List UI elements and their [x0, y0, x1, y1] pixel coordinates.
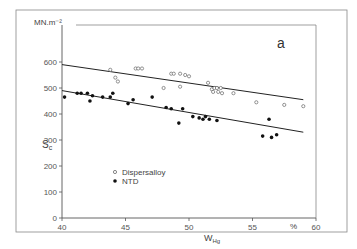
x-tick-label: 55 [248, 223, 257, 232]
data-point-dispersalloy [172, 72, 175, 75]
data-point-dispersalloy [179, 72, 182, 75]
fit-line-dispersalloy [62, 65, 303, 100]
x-axis-label: WHg [204, 233, 220, 244]
legend-label-dispersalloy: Dispersalloy [122, 168, 166, 177]
fit-line-ntd [62, 91, 303, 133]
data-point-ntd [75, 91, 79, 95]
data-point-dispersalloy [217, 90, 220, 93]
data-point-dispersalloy [140, 67, 143, 70]
data-point-ntd [101, 95, 105, 99]
data-point-ntd [79, 91, 83, 95]
y-tick-label: 600 [44, 58, 58, 67]
data-point-dispersalloy [187, 75, 190, 78]
outer-frame [16, 10, 347, 232]
data-point-ntd [197, 116, 201, 120]
data-point-dispersalloy [212, 90, 215, 93]
legend-open-circle-icon [113, 170, 116, 173]
data-point-ntd [191, 115, 195, 119]
x-tick-label: 45 [121, 223, 130, 232]
x-tick-label: 40 [58, 223, 67, 232]
data-point-dispersalloy [206, 81, 209, 84]
data-point-dispersalloy [114, 76, 117, 79]
y-tick-label: 200 [44, 162, 58, 171]
data-point-ntd [126, 102, 130, 106]
data-point-ntd [181, 107, 185, 111]
chart: 01002003004005006004045505560 MN.m⁻² a S… [0, 0, 357, 249]
data-point-dispersalloy [255, 101, 258, 104]
data-point-dispersalloy [116, 80, 119, 83]
legend: Dispersalloy NTD [113, 168, 165, 186]
legend-label-ntd: NTD [122, 177, 139, 186]
data-point-dispersalloy [137, 67, 140, 70]
data-point-ntd [108, 95, 112, 99]
data-point-ntd [204, 115, 208, 119]
y-tick-label: 100 [44, 188, 58, 197]
data-point-dispersalloy [283, 103, 286, 106]
data-point-ntd [88, 99, 92, 103]
data-point-dispersalloy [302, 105, 305, 108]
data-point-dispersalloy [179, 85, 182, 88]
data-point-ntd [270, 136, 274, 140]
data-point-ntd [91, 94, 95, 98]
data-point-dispersalloy [184, 73, 187, 76]
data-point-ntd [261, 134, 265, 138]
y-unit-label: MN.m⁻² [34, 18, 62, 27]
y-tick-label: 400 [44, 110, 58, 119]
data-point-dispersalloy [215, 86, 218, 89]
data-point-ntd [164, 106, 168, 110]
data-point-ntd [275, 133, 279, 137]
data-point-dispersalloy [232, 92, 235, 95]
data-point-ntd [131, 98, 135, 102]
data-point-ntd [208, 117, 212, 121]
data-point-dispersalloy [219, 86, 222, 89]
data-point-ntd [86, 91, 90, 95]
data-point-ntd [169, 107, 173, 111]
data-point-ntd [201, 117, 205, 121]
panel-label: a [277, 35, 285, 51]
data-point-ntd [111, 91, 115, 95]
legend-filled-circle-icon [113, 179, 117, 183]
data-point-ntd [267, 117, 271, 121]
y-tick-label: 500 [44, 84, 58, 93]
data-point-ntd [63, 95, 67, 99]
data-point-dispersalloy [162, 86, 165, 89]
data-point-dispersalloy [220, 92, 223, 95]
data-point-dispersalloy [109, 68, 112, 71]
x-tick-label: 50 [185, 223, 194, 232]
y-tick-label: 0 [53, 214, 58, 223]
x-tick-label: 60 [312, 223, 321, 232]
plot-area: 01002003004005006004045505560 [44, 25, 321, 232]
data-point-ntd [215, 119, 219, 123]
data-point-ntd [150, 95, 154, 99]
data-point-ntd [177, 121, 181, 125]
x-unit-label: % [290, 222, 297, 231]
